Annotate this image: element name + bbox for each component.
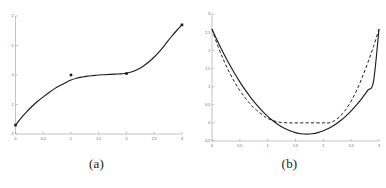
data-point-marker — [181, 24, 184, 27]
x-tick-label: 2.5 — [349, 144, 354, 148]
y-tick-label: 1 — [12, 44, 14, 48]
plot-a-tick-labels: 00.511.522.53-2-1012 — [10, 14, 183, 140]
y-tick-label: 2 — [12, 14, 14, 18]
series-clamped-dashed — [212, 29, 379, 123]
data-point-marker — [125, 72, 128, 75]
y-tick-label: 0 — [208, 121, 210, 125]
panel-a-caption: (a) — [0, 156, 193, 172]
x-tick-label: 2.5 — [152, 137, 157, 141]
series-parabola-solid — [212, 29, 379, 134]
x-tick-label: 2 — [126, 137, 128, 141]
x-tick-label: 2 — [322, 144, 324, 148]
x-tick-label: 0.5 — [41, 137, 46, 141]
panel-b: 00.511.522.53-0.500.511.522.53 (b) — [193, 0, 386, 188]
plot-a-canvas: 00.511.522.53-2-1012 — [0, 0, 193, 160]
panel-a: 00.511.522.53-2-1012 (a) — [0, 0, 193, 188]
x-tick-label: 0.5 — [237, 144, 242, 148]
y-tick-label: -1 — [10, 103, 13, 107]
y-tick-label: -0.5 — [204, 139, 210, 143]
data-point-marker — [14, 124, 17, 127]
y-tick-label: 1.5 — [205, 67, 210, 71]
x-tick-label: 1 — [70, 137, 72, 141]
plot-b-tick-labels: 00.511.522.53-0.500.511.522.53 — [204, 12, 380, 147]
plot-a-curves — [14, 24, 183, 127]
plot-b-canvas: 00.511.522.53-0.500.511.522.53 — [193, 0, 386, 160]
x-tick-label: 1.5 — [293, 144, 298, 148]
series-cubic-curve — [16, 25, 183, 125]
x-tick-label: 1.5 — [96, 137, 101, 141]
plot-b-curves — [212, 29, 379, 134]
y-tick-label: 0 — [12, 73, 14, 77]
y-tick-label: 2.5 — [205, 31, 210, 35]
y-tick-label: 3 — [208, 12, 210, 16]
x-tick-label: 0 — [211, 144, 213, 148]
figure-container: 00.511.522.53-2-1012 (a) 00.511.522.53-0… — [0, 0, 386, 188]
x-tick-label: 3 — [181, 137, 183, 141]
x-tick-label: 0 — [15, 137, 17, 141]
y-tick-label: 0.5 — [205, 103, 210, 107]
panel-b-caption: (b) — [193, 156, 386, 172]
data-point-marker — [70, 74, 73, 77]
y-tick-label: 1 — [208, 85, 210, 89]
y-tick-label: 2 — [208, 49, 210, 53]
x-tick-label: 1 — [267, 144, 269, 148]
x-tick-label: 3 — [378, 144, 380, 148]
y-tick-label: -2 — [10, 132, 13, 136]
